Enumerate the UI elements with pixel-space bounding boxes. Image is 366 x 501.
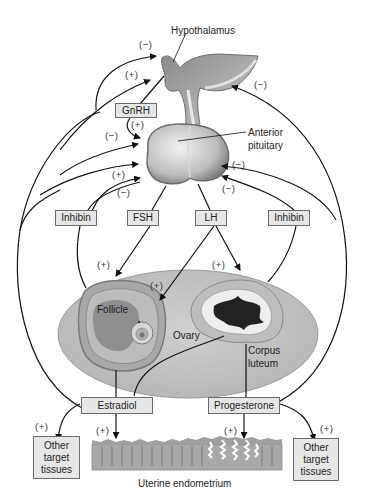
pituitary-illustration	[147, 124, 229, 184]
sign-neg-pituitary-right-top: (−)	[232, 160, 245, 170]
anterior-pituitary-label-line1: Anterior	[248, 127, 283, 138]
diagram-canvas	[0, 0, 366, 501]
sign-pos-lh-corpus-luteum: (+)	[212, 260, 225, 270]
inhibin-right-box: Inhibin	[268, 210, 310, 226]
anterior-pituitary-label-line2: pituitary	[248, 140, 283, 151]
sign-neg-hypothalamus-right: (−)	[254, 80, 267, 90]
sign-neg-hypothalamus-top: (−)	[139, 40, 152, 50]
target-left-line2: target	[44, 452, 70, 464]
follicle-label: Follicle	[97, 304, 128, 315]
inhibin-left-label: Inhibin	[61, 212, 90, 224]
corpus-luteum-illustration	[191, 280, 283, 343]
uterine-endometrium-label: Uterine endometrium	[138, 478, 231, 489]
gnrh-label: GnRH	[122, 105, 150, 117]
inhibin-right-label: Inhibin	[274, 212, 303, 224]
target-right-line1: Other	[303, 442, 328, 454]
fsh-label: FSH	[133, 212, 153, 224]
fsh-box: FSH	[127, 210, 159, 226]
lh-box: LH	[195, 210, 227, 226]
inhibin-left-box: Inhibin	[55, 210, 97, 226]
progesterone-box: Progesterone	[208, 397, 280, 414]
gnrh-box: GnRH	[115, 103, 157, 118]
sign-pos-progesterone-right-target: (+)	[320, 424, 333, 434]
target-left-line1: Other	[44, 440, 69, 452]
endometrium-illustration	[92, 436, 282, 470]
estradiol-label: Estradiol	[98, 400, 137, 412]
sign-neg-pituitary-left-bottom: (−)	[117, 188, 130, 198]
follicle-illustration	[79, 281, 166, 371]
sign-neg-pituitary-left-top: (−)	[105, 131, 118, 141]
sign-pos-pituitary-left: (+)	[112, 170, 125, 180]
other-target-tissues-right-box: Other target tissues	[293, 438, 339, 481]
ovary-label: Ovary	[173, 330, 200, 341]
corpus-luteum-label-line2: luteum	[248, 358, 278, 369]
target-left-line3: tissues	[41, 464, 72, 476]
sign-pos-lh-follicle: (+)	[150, 281, 163, 291]
sign-neg-pituitary-right-bottom: (−)	[222, 184, 235, 194]
progesterone-label: Progesterone	[214, 400, 274, 412]
sign-pos-hypothalamus: (+)	[125, 70, 138, 80]
target-right-line2: target	[303, 454, 329, 466]
sign-pos-fsh-follicle: (+)	[97, 260, 110, 270]
hypothalamus-label: Hypothalamus	[171, 25, 235, 36]
sign-pos-progesterone-endometrium: (+)	[224, 426, 237, 436]
lh-label: LH	[205, 212, 218, 224]
sign-pos-estradiol-left-target: (+)	[35, 422, 48, 432]
corpus-luteum-label-line1: Corpus	[248, 345, 280, 356]
sign-pos-gnrh: (+)	[131, 120, 144, 130]
sign-pos-estradiol-endometrium: (+)	[96, 426, 109, 436]
target-right-line3: tissues	[300, 466, 331, 478]
other-target-tissues-left-box: Other target tissues	[33, 436, 80, 479]
estradiol-box: Estradiol	[81, 397, 153, 414]
